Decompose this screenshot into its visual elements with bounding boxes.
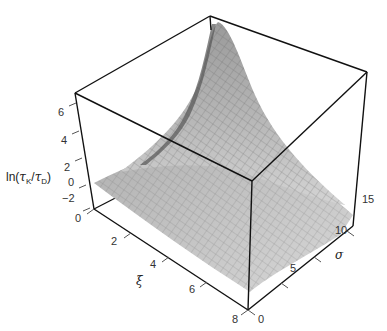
- z-tick-neg2: −2: [62, 192, 75, 204]
- xi-tick-4: 4: [150, 258, 156, 270]
- xi-tick-0: 0: [75, 212, 81, 224]
- surface-plot: 6 4 2 0 −2 ln(τK/τD) 0 2 4 6 8 ξ 0 5 10 …: [0, 0, 387, 331]
- z-tick-2: 2: [64, 161, 70, 173]
- sigma-tick-15: 15: [362, 193, 374, 205]
- xi-tick-8: 8: [232, 313, 238, 325]
- sigma-axis-label: σ: [335, 248, 344, 262]
- sigma-tick-10: 10: [335, 224, 347, 236]
- z-tick-6: 6: [58, 106, 64, 118]
- xi-axis-label: ξ: [136, 274, 144, 288]
- sigma-tick-0: 0: [258, 313, 264, 325]
- xi-tick-2: 2: [111, 235, 117, 247]
- z-axis-label: ln(τK/τD): [6, 170, 51, 186]
- xi-tick-6: 6: [189, 283, 195, 295]
- z-tick-0: 0: [68, 176, 74, 188]
- z-tick-4: 4: [61, 134, 67, 146]
- sigma-tick-5: 5: [290, 262, 296, 274]
